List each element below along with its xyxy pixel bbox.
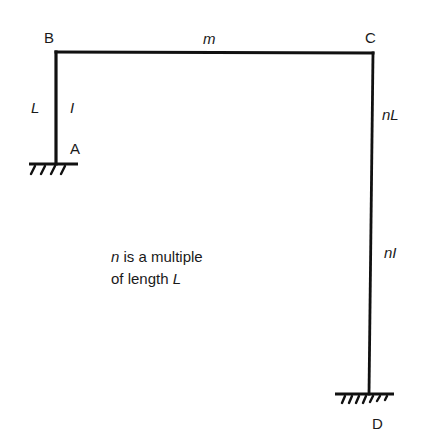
note-line-2-text: of length <box>111 270 173 287</box>
fixed-support-a-icon <box>29 164 78 174</box>
member-bc-label: m <box>203 30 216 47</box>
member-cd-length-label: nL <box>382 106 399 123</box>
member-cd <box>369 53 373 394</box>
member-ab-length-label: L <box>31 99 39 116</box>
node-label-d: D <box>372 415 383 432</box>
fixed-support-d-icon <box>335 394 394 403</box>
portal-frame-diagram: B C A D L I m nL nI n is a multiple of l… <box>0 0 428 444</box>
node-label-b: B <box>44 29 54 46</box>
member-ab-inertia-label: I <box>70 99 74 116</box>
note-var-n: n <box>111 248 119 265</box>
node-label-c: C <box>365 29 376 46</box>
member-bc <box>56 52 373 53</box>
member-cd-inertia-label: nI <box>384 244 397 261</box>
note-var-l: L <box>173 270 181 287</box>
note-line-1-text: is a multiple <box>119 248 202 265</box>
note-line-2: of length L <box>111 270 181 287</box>
node-label-a: A <box>70 140 80 157</box>
note-line-1: n is a multiple <box>111 248 203 265</box>
